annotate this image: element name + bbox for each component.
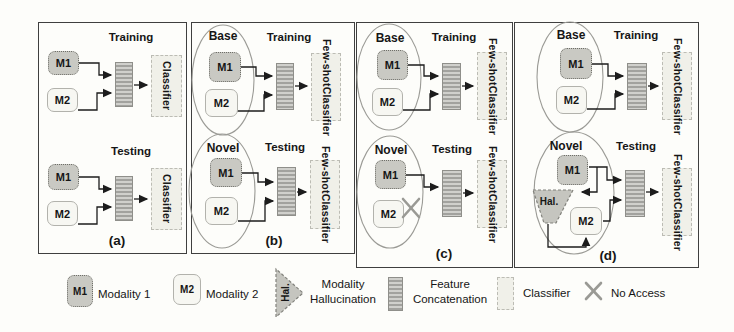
b-testing-label: Testing: [254, 141, 316, 153]
d-novel-label: Novel: [545, 139, 587, 153]
c-train-m2-text: M2: [380, 96, 395, 108]
legend-m2-label: Modality 2: [206, 288, 270, 300]
a-train-m2-box: M2: [47, 88, 78, 112]
c-train-fewshot-text: Few-shot: [487, 38, 499, 86]
c-train-m2-box: M2: [372, 88, 403, 116]
b-test-m1-text: M1: [218, 167, 233, 179]
b-test-classifier-box: Few-shotClassifier: [310, 160, 340, 229]
a-training-label: Training: [100, 31, 162, 43]
c-train-concat-bar: [442, 63, 461, 110]
legend-concat-label: Feature Concatenation: [408, 277, 492, 307]
d-test-classifier-text: Classifier: [672, 201, 684, 250]
a-testing-label: Testing: [100, 145, 162, 157]
b-train-classifier-text: Classifier: [321, 86, 333, 135]
c-test-m2-text: M2: [381, 208, 396, 220]
c-train-m1-box: M1: [377, 50, 408, 80]
a-train-m1-box: M1: [48, 51, 79, 75]
b-test-concat-bar: [277, 167, 296, 216]
d-train-fewshot-text: Few-shot: [672, 38, 684, 86]
a-train-concat-bar: [115, 62, 133, 107]
d-test-fewshot-text: Few-shot: [672, 154, 684, 202]
c-train-classifier-text: Classifier: [487, 85, 499, 134]
panel-c-label: (c): [430, 246, 458, 261]
d-base-label: Base: [551, 28, 591, 42]
d-test-concat-bar: [625, 170, 645, 217]
c-test-classifier-text: Classifier: [487, 193, 499, 242]
b-train-fewshot-text: Few-shot: [321, 39, 333, 87]
a-test-concat-bar: [115, 176, 133, 221]
d-test-m2-text: M2: [578, 215, 593, 227]
a-test-m2-box: M2: [47, 201, 78, 226]
legend-m1-box: M1: [67, 275, 93, 307]
a-train-classifier-text: Classifier: [161, 61, 173, 110]
a-test-classifier-text: Classifier: [161, 174, 173, 223]
legend-m1-label: Modality 1: [98, 288, 160, 300]
d-train-concat-bar: [627, 63, 647, 110]
c-testing-label: Testing: [421, 143, 483, 155]
c-novel-label: Novel: [370, 143, 412, 157]
a-train-m2-text: M2: [55, 94, 70, 106]
d-train-classifier-box: Few-shotClassifier: [662, 52, 692, 120]
a-train-classifier-box: Classifier: [151, 55, 182, 117]
c-train-m1-text: M1: [385, 59, 400, 71]
d-test-m1-box: M1: [557, 155, 588, 185]
legend-concat-bar: [388, 277, 403, 311]
c-test-m1-box: M1: [375, 160, 406, 189]
b-test-m2-text: M2: [214, 205, 229, 217]
b-train-m2-text: M2: [214, 97, 229, 109]
d-test-classifier-box: Few-shotClassifier: [662, 168, 692, 236]
c-test-fewshot-text: Few-shot: [487, 146, 499, 194]
d-test-m2-box: M2: [570, 207, 602, 235]
c-base-label: Base: [370, 31, 410, 45]
c-test-m1-text: M1: [383, 169, 398, 181]
legend-classifier-box: [497, 277, 514, 310]
legend-m2-box: M2: [173, 274, 201, 305]
b-train-m1-box: M1: [209, 52, 241, 82]
b-train-m2-box: M2: [205, 89, 238, 117]
figure-root: Training M1 M2 Classifier Testing M1 M2 …: [0, 0, 734, 332]
b-test-classifier-text: Classifier: [320, 194, 332, 243]
a-test-m1-box: M1: [48, 164, 79, 190]
c-test-concat-bar: [442, 170, 462, 217]
a-test-classifier-box: Classifier: [151, 168, 182, 230]
d-train-classifier-text: Classifier: [672, 85, 684, 134]
b-training-label: Training: [258, 31, 320, 43]
d-train-m2-box: M2: [556, 86, 587, 114]
panel-a-label: (a): [103, 233, 131, 248]
panel-b-label: (b): [260, 233, 288, 248]
d-train-m2-text: M2: [564, 94, 579, 106]
c-training-label: Training: [423, 31, 485, 43]
legend-classifier-label: Classifier: [523, 287, 581, 299]
d-testing-label: Testing: [605, 140, 667, 152]
b-train-concat-bar: [276, 63, 294, 110]
b-base-label: Base: [203, 29, 243, 43]
d-test-m1-text: M1: [565, 164, 580, 176]
c-test-classifier-box: Few-shotClassifier: [477, 160, 507, 228]
b-test-fewshot-text: Few-shot: [320, 146, 332, 194]
a-test-m1-text: M1: [56, 171, 71, 183]
legend-no-access-x-icon: [586, 283, 601, 299]
a-test-m2-text: M2: [55, 208, 70, 220]
b-test-m1-box: M1: [210, 158, 242, 187]
legend-m1-text: M1: [73, 286, 87, 297]
legend-no-access-label: No Access: [611, 287, 675, 299]
legend-hal-symbol-label: Hal.: [280, 278, 291, 308]
legend-m2-text: M2: [180, 284, 194, 295]
b-train-m1-text: M1: [217, 61, 232, 73]
d-train-m1-box: M1: [560, 48, 592, 79]
panel-d-label: (d): [594, 248, 622, 263]
d-training-label: Training: [605, 29, 667, 41]
b-test-m2-box: M2: [205, 197, 238, 225]
c-train-classifier-box: Few-shotClassifier: [477, 52, 507, 120]
d-hal-label: Hal.: [534, 196, 564, 207]
c-test-m2-box: M2: [373, 200, 404, 228]
legend-hallucination-label: Modality Hallucination: [303, 277, 383, 307]
d-train-m1-text: M1: [568, 58, 583, 70]
b-train-classifier-box: Few-shotClassifier: [311, 53, 341, 121]
a-train-m1-text: M1: [56, 57, 71, 69]
b-novel-label: Novel: [202, 141, 244, 155]
